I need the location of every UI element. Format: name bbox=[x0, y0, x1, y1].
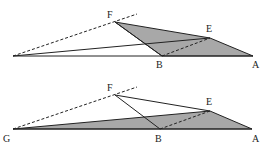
label-g: G bbox=[3, 133, 10, 144]
label-e: E bbox=[206, 96, 212, 107]
label-b: B bbox=[155, 133, 162, 144]
shaded-triangle bbox=[13, 111, 252, 129]
figure-bottom: F E G B A bbox=[3, 82, 260, 144]
label-f: F bbox=[107, 82, 113, 93]
dashed-upper bbox=[13, 14, 137, 56]
label-b: B bbox=[156, 59, 163, 70]
label-e: E bbox=[206, 23, 212, 34]
geometry-diagram: F E B A F E G B A bbox=[0, 0, 265, 152]
line-fe bbox=[115, 95, 210, 111]
label-a: A bbox=[252, 59, 260, 70]
figure-top: F E B A bbox=[13, 9, 260, 70]
label-a: A bbox=[252, 133, 260, 144]
label-f: F bbox=[107, 9, 113, 20]
shaded-quadrilateral bbox=[115, 22, 253, 56]
